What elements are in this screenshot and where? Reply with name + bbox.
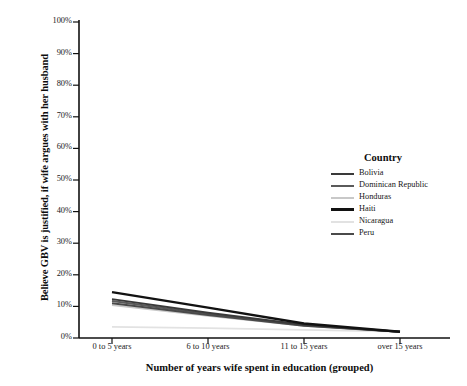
x-tick-label: 11 to 15 years [281, 342, 328, 351]
legend-item-label: Honduras [359, 193, 391, 201]
legend-item-label: Haiti [359, 205, 376, 213]
legend-items: BoliviaDominican RepublicHondurasHaitiNi… [331, 168, 457, 239]
legend-swatch-icon [331, 221, 354, 223]
legend-item[interactable]: Dominican Republic [331, 180, 457, 191]
y-tick-label: 100% [38, 17, 72, 25]
legend-item[interactable]: Bolivia [331, 168, 457, 179]
series-line [112, 292, 400, 332]
legend-item[interactable]: Haiti [331, 204, 457, 215]
legend-item-label: Bolivia [359, 169, 383, 177]
y-axis-title: Believe GBV is justified, if wife argues… [39, 28, 50, 328]
legend: Country BoliviaDominican RepublicHondura… [331, 152, 457, 240]
line-chart: 0%10%20%30%40%50%60%70%80%90%100% 0 to 5… [0, 0, 467, 386]
legend-swatch-icon [331, 197, 354, 199]
x-tick-label: over 15 years [377, 342, 422, 351]
x-tick-label: 6 to 10 years [186, 342, 229, 351]
y-tick-label: 0% [38, 333, 72, 341]
legend-swatch-icon [331, 173, 354, 175]
x-axis-title: Number of years wife spent in education … [79, 362, 440, 373]
legend-item-label: Dominican Republic [359, 181, 428, 189]
y-axis-ticks [73, 22, 79, 338]
legend-swatch-icon [331, 233, 354, 235]
legend-item-label: Nicaragua [359, 217, 393, 225]
legend-item[interactable]: Peru [331, 228, 457, 239]
x-tick-label: 0 to 5 years [93, 342, 132, 351]
legend-swatch-icon [331, 185, 354, 187]
series-lines [112, 292, 400, 332]
legend-item[interactable]: Nicaragua [331, 216, 457, 227]
legend-item[interactable]: Honduras [331, 192, 457, 203]
x-axis-ticks [112, 338, 400, 344]
legend-swatch-icon [331, 208, 354, 210]
legend-title: Country [335, 152, 431, 163]
legend-item-label: Peru [359, 229, 374, 237]
